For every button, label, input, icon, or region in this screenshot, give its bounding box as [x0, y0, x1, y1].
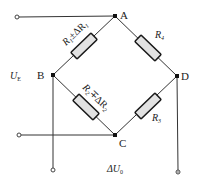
- label-node-d: D: [181, 70, 189, 82]
- label-node-c: C: [119, 137, 126, 149]
- wire-top-input: [19, 16, 115, 17]
- node-b: [51, 73, 55, 77]
- bridge-circuit-diagram: A B C D R1±ΔR1 R4 R2∓ΔR2 R3 UE ΔU0: [0, 0, 200, 187]
- label-node-a: A: [120, 9, 128, 21]
- label-supply-voltage: UE: [10, 70, 21, 82]
- svg-text:R3: R3: [151, 112, 161, 124]
- label-r4: R4: [154, 29, 164, 41]
- node-c: [113, 133, 117, 137]
- label-r3: R3: [151, 112, 161, 124]
- label-output-voltage: ΔU0: [106, 163, 123, 175]
- terminal-bottom-left: [51, 168, 55, 172]
- svg-text:R4: R4: [154, 29, 164, 41]
- node-d: [175, 74, 179, 78]
- terminal-mid-left: [17, 133, 21, 137]
- node-a: [113, 14, 117, 18]
- terminal-top-left: [15, 15, 19, 19]
- label-node-b: B: [37, 69, 44, 81]
- wire-d-output: [177, 76, 178, 170]
